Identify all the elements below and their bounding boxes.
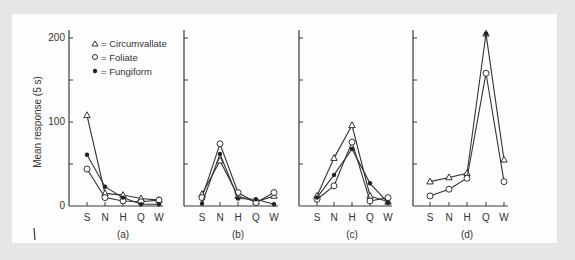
x-tick-label: Q (482, 212, 490, 223)
x-tick-label: H (234, 212, 241, 223)
x-tick-label: Q (252, 212, 260, 223)
open-circle-marker-icon (501, 179, 507, 185)
x-tick-label: N (101, 212, 108, 223)
y-axis-label: Mean response (5 s) (32, 76, 43, 168)
open-circle-marker-icon (483, 70, 489, 76)
stray-mark (34, 228, 35, 240)
figure-chart: Mean response (5 s) 200 100 0 SNHQW(a)SN… (0, 0, 575, 260)
panel-c: SNHQW(c) (299, 30, 393, 240)
legend-item-fungiform: = Fungiform (93, 66, 152, 77)
x-tick-label: W (269, 212, 279, 223)
filled-circle-marker-icon (332, 173, 336, 177)
filled-circle-marker-icon (315, 195, 319, 199)
filled-circle-marker-icon (200, 201, 204, 205)
triangle-marker-icon (464, 170, 470, 176)
filled-circle-marker-icon (218, 152, 222, 156)
filled-circle-marker-icon (272, 202, 276, 206)
legend-label: = Fungiform (101, 66, 152, 77)
legend-label: = Circumvallate (101, 38, 167, 49)
filled-circle-marker-icon (368, 181, 372, 185)
open-circle-marker-icon (271, 190, 277, 196)
open-circle-marker-icon (331, 183, 337, 189)
filled-circle-marker-icon (254, 197, 258, 201)
x-tick-label: H (348, 212, 355, 223)
y-tick-label-0: 0 (59, 200, 65, 211)
open-circle-marker-icon (446, 186, 452, 192)
panel-b: SNHQW(b) (184, 30, 279, 240)
filled-circle-marker-icon (157, 202, 161, 206)
y-tick-label-100: 100 (48, 116, 65, 127)
x-tick-label: N (330, 212, 337, 223)
legend: = Circumvallate = Foliate = Fungiform (92, 38, 167, 77)
series-line-circumvallate (87, 115, 159, 200)
x-tick-label: N (216, 212, 223, 223)
panel-label: (d) (461, 229, 473, 240)
panel-d: SNHQW(d) (413, 30, 509, 240)
open-circle-marker-icon (84, 166, 90, 172)
open-circle-marker-icon (349, 139, 355, 145)
y-tick-label-200: 200 (48, 32, 65, 43)
x-tick-label: Q (366, 212, 374, 223)
filled-circle-marker-icon (103, 184, 107, 188)
triangle-marker-icon (349, 122, 355, 128)
open-circle-marker-icon (464, 175, 470, 181)
open-circle-marker-icon (217, 141, 223, 147)
x-tick-label: N (445, 212, 452, 223)
legend-label: = Foliate (101, 52, 138, 63)
x-tick-label: H (463, 212, 470, 223)
triangle-marker-icon (92, 41, 98, 46)
panel-label: (a) (117, 229, 129, 240)
filled-circle-marker-icon (236, 196, 240, 200)
open-circle-marker-icon (93, 55, 98, 60)
filled-circle-marker-icon (139, 202, 143, 206)
series-line-fungiform (317, 149, 388, 203)
open-circle-marker-icon (427, 193, 433, 199)
filled-circle-marker-icon (93, 69, 97, 73)
x-tick-label: S (84, 212, 91, 223)
triangle-marker-icon (501, 156, 507, 162)
filled-circle-marker-icon (121, 195, 125, 199)
x-tick-label: W (499, 212, 509, 223)
filled-circle-marker-icon (350, 147, 354, 151)
legend-item-foliate: = Foliate (93, 52, 138, 63)
filled-circle-marker-icon (85, 153, 89, 157)
x-tick-label: S (427, 212, 434, 223)
x-tick-label: S (314, 212, 321, 223)
x-tick-label: Q (137, 212, 145, 223)
triangle-marker-icon (331, 155, 337, 161)
x-tick-label: W (154, 212, 164, 223)
x-tick-label: H (119, 212, 126, 223)
filled-circle-marker-icon (484, 32, 488, 36)
triangle-marker-icon (84, 112, 90, 118)
panel-label: (b) (232, 229, 244, 240)
panel-label: (c) (346, 229, 358, 240)
filled-circle-marker-icon (386, 200, 390, 204)
x-tick-label: W (383, 212, 393, 223)
x-tick-label: S (199, 212, 206, 223)
legend-item-circumvallate: = Circumvallate (92, 38, 167, 49)
series-line-circumvallate (430, 34, 504, 182)
open-circle-marker-icon (367, 198, 373, 204)
open-circle-marker-icon (102, 195, 108, 201)
